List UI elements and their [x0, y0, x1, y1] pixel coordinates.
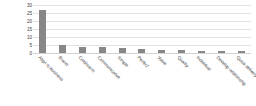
x-axis-label: Value — [156, 55, 167, 66]
bar — [79, 47, 86, 53]
bar-slot — [172, 5, 192, 53]
bar — [119, 48, 126, 53]
bar — [138, 49, 145, 53]
bar — [218, 51, 225, 53]
bar-slot — [152, 5, 172, 53]
x-axis: Align to businessBrandCold/warmCommunica… — [33, 54, 251, 106]
y-axis-tick: 5 — [30, 43, 32, 48]
bar-slot — [33, 5, 53, 53]
x-axis-label: Cold/warm — [77, 55, 95, 73]
y-axis-tick: 20 — [27, 19, 32, 24]
bar — [178, 50, 185, 53]
bar — [59, 45, 66, 53]
bar — [158, 50, 165, 53]
bar-slot — [132, 5, 152, 53]
x-axis-label: Quality — [176, 55, 189, 68]
bar-slot — [73, 5, 93, 53]
y-axis-tick: 25 — [27, 11, 32, 16]
bar-series — [33, 5, 251, 53]
x-axis-label: Individual — [196, 55, 213, 72]
bar-slot — [192, 5, 212, 53]
y-axis: 302520151050 — [19, 0, 32, 58]
bar — [198, 51, 205, 53]
y-axis-tick: 30 — [27, 3, 32, 8]
bar — [238, 51, 245, 53]
y-axis-tick: 0 — [30, 51, 32, 56]
bar — [39, 10, 46, 53]
x-axis-label: Perfect — [136, 55, 149, 68]
y-axis-tick: 15 — [27, 27, 32, 32]
bar-slot — [211, 5, 231, 53]
plot-area — [33, 5, 251, 53]
bar — [99, 47, 106, 53]
bar-chart: 302520151050 Align to businessBrandCold/… — [0, 0, 256, 106]
bar-slot — [53, 5, 73, 53]
x-axis-label: Simple — [117, 55, 130, 68]
bar-slot — [231, 5, 251, 53]
bar-slot — [112, 5, 132, 53]
bar-slot — [92, 5, 112, 53]
y-axis-tick: 10 — [27, 35, 32, 40]
x-axis-label: Brand — [57, 55, 69, 67]
